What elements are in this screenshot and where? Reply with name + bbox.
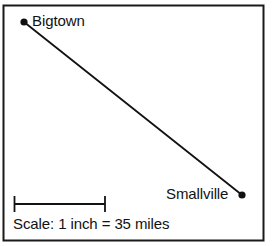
map-figure: Bigtown Smallville Scale: 1 inch = 35 mi…: [0, 0, 272, 246]
smallville-point-icon: [238, 191, 245, 198]
scale-caption: Scale: 1 inch = 35 miles: [13, 216, 169, 231]
map-label-bigtown: Bigtown: [32, 13, 85, 28]
bigtown-point-icon: [20, 18, 27, 25]
map-border: [4, 6, 264, 241]
map-canvas: [0, 0, 272, 246]
map-label-smallville: Smallville: [166, 186, 228, 201]
